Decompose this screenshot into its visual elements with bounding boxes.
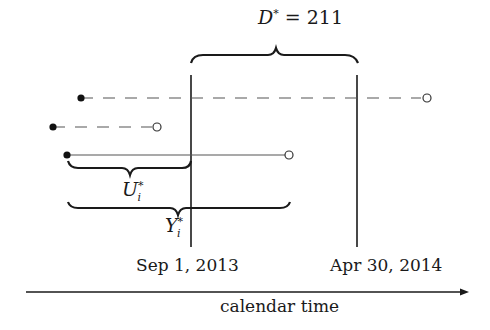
d-relation: =	[285, 6, 301, 28]
y-subscript: i	[177, 227, 181, 240]
y-star-label: Y*i	[165, 214, 181, 240]
interval-row-3-end-circle	[285, 151, 293, 159]
interval-row-1-start-dot	[77, 94, 84, 101]
d-value: 211	[307, 6, 343, 28]
u-brace	[68, 161, 191, 175]
d-symbol: D	[258, 6, 273, 28]
interval-row-3-start-dot	[63, 151, 70, 158]
sep-2013-label: Sep 1, 2013	[136, 255, 239, 275]
d-superscript: *	[273, 7, 279, 20]
u-star-label: U*i	[122, 178, 141, 204]
d-star-brace	[191, 48, 358, 63]
interval-row-2-start-dot	[49, 123, 56, 130]
apr-2014-label: Apr 30, 2014	[330, 255, 442, 275]
diagram-canvas	[0, 0, 490, 330]
u-subscript: i	[138, 191, 142, 204]
interval-row-2-end-circle	[153, 123, 161, 131]
u-symbol: U	[122, 178, 138, 200]
interval-row-1-end-circle	[423, 94, 431, 102]
calendar-time-label: calendar time	[220, 296, 339, 316]
y-symbol: Y	[165, 214, 178, 236]
d-star-label: D* = 211	[258, 6, 343, 28]
axis-arrowhead-icon	[460, 289, 469, 296]
